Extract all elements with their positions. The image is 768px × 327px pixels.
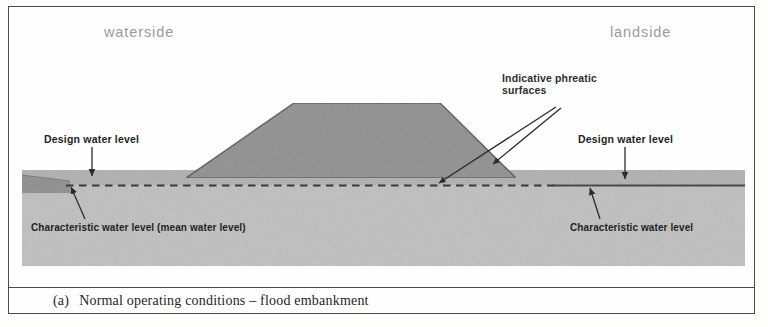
label-characteristic-water-level-landside: Characteristic water level: [570, 222, 693, 234]
figure-caption-bar: (a) Normal operating conditions – flood …: [9, 287, 754, 313]
label-waterside: waterside: [104, 24, 174, 41]
label-phreatic-line-2: surfaces: [502, 84, 597, 96]
leader-phreatic-short: [493, 108, 561, 164]
figure-caption-index: (a): [9, 293, 69, 309]
ground-foundation-layer: [22, 170, 745, 266]
label-indicative-phreatic-surfaces: Indicative phreatic surfaces: [502, 72, 597, 97]
label-landside: landside: [610, 24, 671, 41]
flood-embankment-body: [186, 103, 516, 178]
label-design-water-level-waterside: Design water level: [44, 133, 139, 145]
embankment-cross-section-drawing: [0, 0, 768, 327]
figure-caption-text: Normal operating conditions – flood emba…: [69, 293, 369, 309]
label-phreatic-line-1: Indicative phreatic: [502, 72, 597, 84]
label-characteristic-water-level-waterside: Characteristic water level (mean water l…: [31, 222, 246, 234]
figure-root: waterside landside Indicative phreatic s…: [0, 0, 768, 327]
label-design-water-level-landside: Design water level: [578, 133, 673, 145]
